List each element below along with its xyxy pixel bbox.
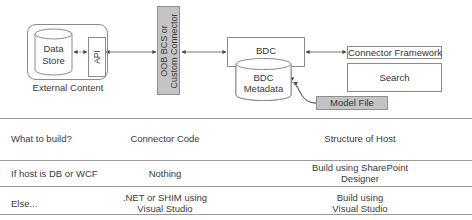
row-host-line1: Build using SharePoint bbox=[290, 162, 430, 173]
connector-framework-box: Connector Framework bbox=[347, 46, 442, 59]
row-connector-line1: .NET or SHIM using bbox=[110, 192, 220, 203]
row-host: Build using Visual Studio bbox=[290, 192, 430, 214]
architecture-diagram: Data Store API External Content OOB BCS … bbox=[0, 0, 472, 118]
search-box: Search bbox=[347, 63, 442, 92]
row-host: Structure of Host bbox=[290, 133, 430, 144]
row-question: Else... bbox=[11, 198, 37, 209]
bdc-metadata-line2: Metadata bbox=[236, 83, 291, 94]
row-host-line2: Visual Studio bbox=[290, 203, 430, 214]
row-host: Build using SharePoint Designer bbox=[290, 162, 430, 184]
row-connector-line2: Visual Studio bbox=[110, 203, 220, 214]
row-connector: .NET or SHIM using Visual Studio bbox=[110, 192, 220, 214]
bdc-metadata-label: BDC Metadata bbox=[236, 72, 291, 94]
bdc-metadata-line1: BDC bbox=[236, 72, 291, 83]
table-row: What to build? Connector Code Structure … bbox=[0, 118, 472, 160]
row-connector: Connector Code bbox=[110, 133, 220, 144]
bdc-metadata-overlay bbox=[0, 0, 472, 118]
table-row: If host is DB or WCF Nothing Build using… bbox=[0, 160, 472, 186]
table-rule-bottom bbox=[0, 214, 472, 215]
row-question: What to build? bbox=[11, 133, 72, 144]
model-file-box: Model File bbox=[316, 96, 388, 110]
row-connector: Nothing bbox=[110, 168, 220, 179]
row-host-line2: Designer bbox=[290, 173, 430, 184]
row-question: If host is DB or WCF bbox=[11, 168, 98, 179]
row-host-line1: Build using bbox=[290, 192, 430, 203]
